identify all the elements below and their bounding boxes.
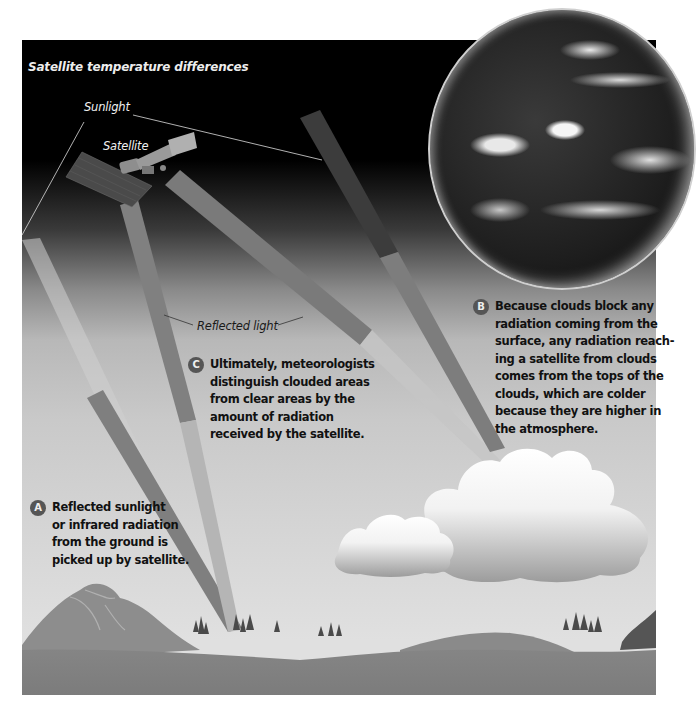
badge-c: C xyxy=(188,357,204,373)
callout-c: C Ultimately, meteorologists distinguish… xyxy=(210,356,375,444)
mountain xyxy=(22,584,200,660)
label-sunlight: Sunlight xyxy=(84,100,130,114)
label-reflected-light: Reflected light xyxy=(197,319,278,333)
cloud-small xyxy=(335,515,454,577)
cloud-large xyxy=(421,449,648,582)
label-satellite: Satellite xyxy=(103,139,148,153)
trees xyxy=(193,612,602,636)
badge-a: A xyxy=(30,500,46,516)
rock-right xyxy=(620,610,656,650)
earth-satellite-image xyxy=(428,8,696,290)
ground xyxy=(22,650,656,695)
callout-a: A Reflected sunlight or infrared radiati… xyxy=(52,499,189,569)
badge-b: B xyxy=(473,299,489,315)
diagram-title: Satellite temperature differences xyxy=(28,60,248,74)
callout-b: B Because clouds block any radiation com… xyxy=(495,298,674,438)
